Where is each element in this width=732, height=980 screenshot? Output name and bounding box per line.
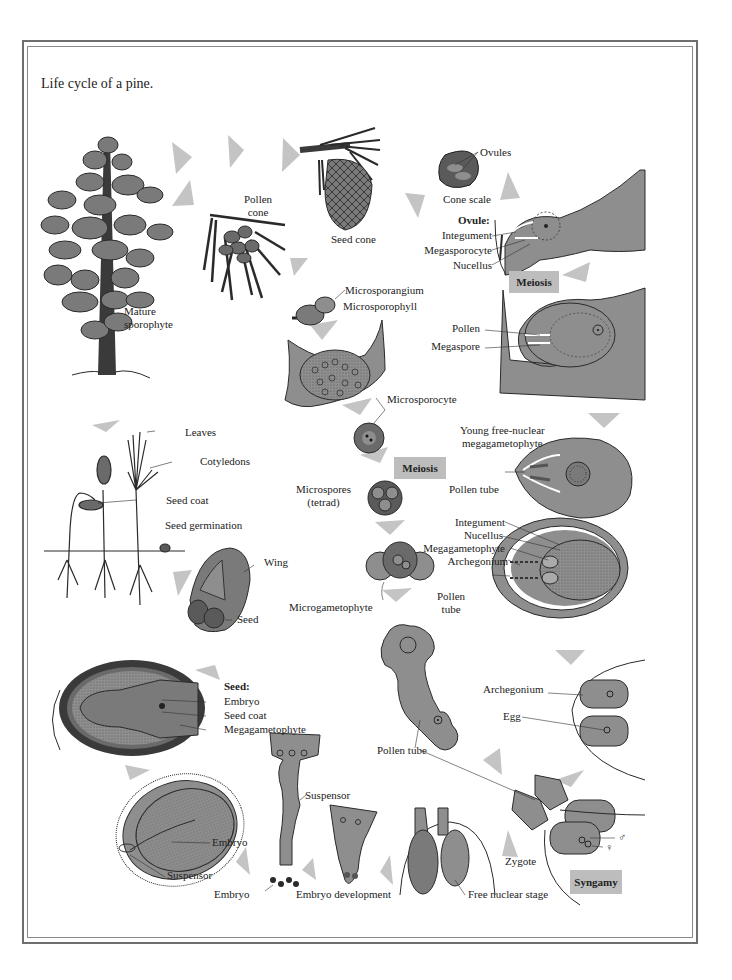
- arrow-icon: [228, 135, 244, 168]
- arrow-icon: [342, 398, 372, 415]
- label-zygote: Zygote: [505, 855, 536, 868]
- seed-section-icon: [53, 660, 207, 756]
- label-microsporangium: Microsporangium: [345, 284, 424, 297]
- ovule-icon: [495, 170, 645, 275]
- seed-cone-icon: [300, 128, 380, 230]
- male-symbol-icon: ♂: [618, 831, 626, 844]
- young-megagametophyte-ovule-icon: [505, 438, 632, 518]
- label-cotyledons: Cotyledons: [200, 455, 250, 468]
- label-megasporocyte: Megasporocyte: [410, 244, 492, 257]
- mature-ovule-archegonia-icon: [492, 518, 628, 618]
- label-young-megagametophyte: Young free-nuclear megagametophyte: [460, 424, 545, 450]
- label-integument-mature: Integument: [440, 516, 505, 529]
- label-archegonium-mature: Archegonium: [430, 555, 508, 568]
- label-free-nuclear-stage: Free nuclear stage: [468, 888, 548, 901]
- label-nucellus-mature: Nucellus: [440, 529, 503, 542]
- label-embryo-development: Embryo development: [296, 888, 391, 901]
- label-pollen-tube-mature: Pollen tube: [437, 590, 465, 616]
- label-suspensor-in-ovule: Suspensor: [167, 869, 212, 882]
- arrow-icon: [562, 262, 590, 282]
- arrow-icon: [236, 847, 250, 875]
- label-ovules: Ovules: [480, 146, 511, 159]
- arrow-icon: [195, 665, 220, 680]
- microsporangium-section-icon: [285, 320, 385, 407]
- arrow-icon: [483, 748, 502, 775]
- label-microspores-tetrad: Microspores (tetrad): [296, 483, 351, 509]
- germinating-pollen-tube-icon: [381, 625, 458, 750]
- microspore-tetrad-icon: [368, 481, 402, 515]
- seedlings-icon: [44, 431, 185, 605]
- arrow-icon: [282, 138, 300, 172]
- label-integument: Integument: [440, 229, 492, 242]
- badge-meiosis-female: Meiosis: [509, 271, 559, 293]
- label-microgametophyte: Microgametophyte: [289, 601, 373, 614]
- label-pollen: Pollen: [440, 322, 480, 335]
- label-egg: Egg: [503, 710, 521, 723]
- arrow-icon: [500, 172, 520, 200]
- label-embryo-in-ovule: Embryo: [212, 836, 247, 849]
- arrow-icon: [380, 855, 393, 885]
- arrow-icon: [588, 413, 620, 428]
- arrow-icon: [173, 570, 192, 596]
- arrow-icon: [92, 420, 120, 432]
- label-microsporocyte: Microsporocyte: [387, 393, 457, 406]
- free-nuclear-stage-icon: [400, 808, 495, 895]
- label-seed-germination: Seed germination: [165, 519, 242, 532]
- microsporophyll-icon: [292, 290, 345, 325]
- label-wing: Wing: [264, 556, 288, 569]
- arrow-icon: [405, 193, 425, 218]
- badge-meiosis-male: Meiosis: [394, 457, 446, 479]
- archegonia-eggs-icon: [522, 660, 645, 780]
- label-cone-scale: Cone scale: [443, 193, 491, 206]
- label-megagametophyte-mature: Megagametophyte: [410, 542, 505, 555]
- label-seed-heading: Seed:: [224, 680, 250, 693]
- label-embryo-tip: Embryo: [214, 888, 249, 901]
- label-nucellus: Nucellus: [440, 259, 492, 272]
- label-pollen-tube-young: Pollen tube: [449, 483, 499, 496]
- label-pollen-cone: Pollen cone: [244, 193, 272, 219]
- label-ovule-heading: Ovule:: [458, 214, 490, 227]
- label-archegonium-eggs: Archegonium: [483, 683, 543, 696]
- arrow-icon: [382, 588, 412, 602]
- arrow-icon: [375, 520, 405, 535]
- arrow-icon: [290, 258, 308, 276]
- arrow-icon: [502, 830, 518, 857]
- pollinated-ovule-icon: [485, 288, 645, 400]
- label-seed: Seed: [237, 613, 258, 626]
- label-pollen-tube-fertilization: Pollen tube: [377, 744, 427, 757]
- cone-scale-icon: [439, 151, 479, 188]
- arrow-icon: [172, 180, 194, 206]
- label-seed-coat-germination: Seed coat: [166, 494, 208, 507]
- badge-syngamy: Syngamy: [570, 870, 622, 894]
- label-seed-cone: Seed cone: [331, 233, 376, 246]
- label-microsporophyll: Microsporophyll: [343, 300, 417, 313]
- label-seed-coat: Seed coat: [224, 709, 266, 722]
- female-symbol-icon: ♀: [605, 841, 613, 854]
- pine-tree-icon: [41, 137, 173, 378]
- label-suspensor-elongated: Suspensor: [305, 789, 350, 802]
- label-embryo-seed: Embryo: [224, 695, 259, 708]
- arrow-icon: [302, 858, 316, 880]
- arrow-icon: [125, 765, 150, 780]
- embryo-development-icon: [330, 805, 377, 883]
- label-megagametophyte-seed: Megagametophyte: [224, 723, 306, 736]
- label-mature-sporophyte: Mature sporophyte: [124, 305, 173, 331]
- label-megaspore: Megaspore: [420, 340, 480, 353]
- arrow-icon: [172, 142, 192, 174]
- arrow-icon: [555, 650, 585, 665]
- label-leaves: Leaves: [185, 426, 216, 439]
